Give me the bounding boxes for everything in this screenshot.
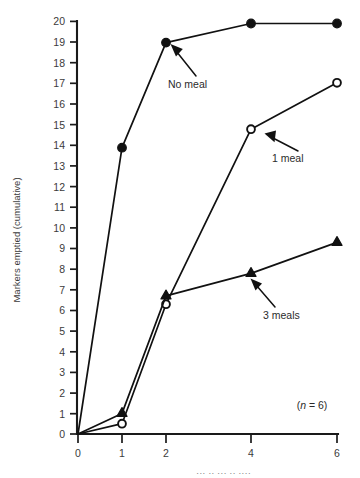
y-tick-label: 12 [53,181,65,193]
y-tick-label: 10 [53,222,65,234]
y-axis-title: Markers emptied (cumulative) [11,177,22,302]
y-tick-label: 11 [54,201,65,213]
line-chart-svg: 20 19 18 17 16 15 14 13 12 11 10 9 8 7 6… [0,0,360,478]
y-tick-label: 3 [59,366,65,378]
data-point [118,420,126,428]
y-tick-label: 8 [59,263,65,275]
x-tick-label: 1 [119,447,125,459]
data-point [118,143,127,152]
x-tick-label: 2 [163,447,169,459]
y-tick-label: 1 [59,408,65,420]
annotation-no-meal: No meal [168,44,207,90]
annotation-3-meals: 3 meals [251,279,300,322]
sample-size-note: (n = 6) [297,399,328,411]
annotation-label: No meal [168,78,207,90]
y-tick-label: 0 [59,428,65,440]
y-tick-label: 2 [59,387,65,399]
data-point [247,19,256,28]
chart-figure: 20 19 18 17 16 15 14 13 12 11 10 9 8 7 6… [0,0,360,478]
data-point [333,79,341,87]
x-axis-ticks [78,434,337,443]
annotation-label: 1 meal [272,152,304,164]
data-point [332,237,342,246]
note-suffix: = 6) [306,399,327,411]
y-tick-label: 5 [59,325,65,337]
data-point [247,125,255,133]
y-tick-label: 19 [53,36,65,48]
cropped-caption-strip: ··· ·· ··· ·· ···· [0,469,360,478]
y-tick-label: 13 [53,160,65,172]
y-tick-label: 20 [53,15,65,27]
series-no-meal [78,19,341,434]
y-axis-tick-labels: 20 19 18 17 16 15 14 13 12 11 10 9 8 7 6… [53,15,65,440]
annotation-label: 3 meals [263,309,300,321]
y-tick-label: 14 [53,139,65,151]
y-tick-label: 6 [59,304,65,316]
x-tick-label: 0 [75,447,81,459]
series-line-no-meal [78,24,337,435]
series-1-meal [78,79,341,434]
y-tick-label: 9 [59,242,65,254]
y-tick-label: 4 [59,346,65,358]
annotation-1-meal: 1 meal [265,131,304,165]
y-tick-label: 15 [53,119,65,131]
y-axis-ticks [70,21,77,434]
y-tick-label: 18 [53,57,65,69]
series-line-1-meal [78,83,337,434]
x-tick-label: 6 [334,447,340,459]
y-tick-label: 17 [53,77,65,89]
x-tick-label: 4 [248,447,254,459]
y-tick-label: 7 [59,284,65,296]
x-axis-tick-labels: 0 1 2 4 6 [75,447,340,459]
y-tick-label: 16 [53,98,65,110]
data-point [162,38,171,47]
data-point [333,19,342,28]
caption-text: ··· ·· ··· ·· ···· [196,469,251,478]
